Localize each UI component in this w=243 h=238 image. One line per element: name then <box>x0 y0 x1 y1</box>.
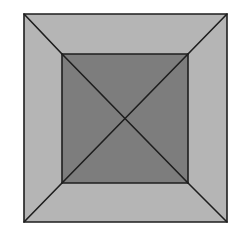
frustum-diagram <box>0 0 243 238</box>
diagram-canvas <box>0 0 243 238</box>
